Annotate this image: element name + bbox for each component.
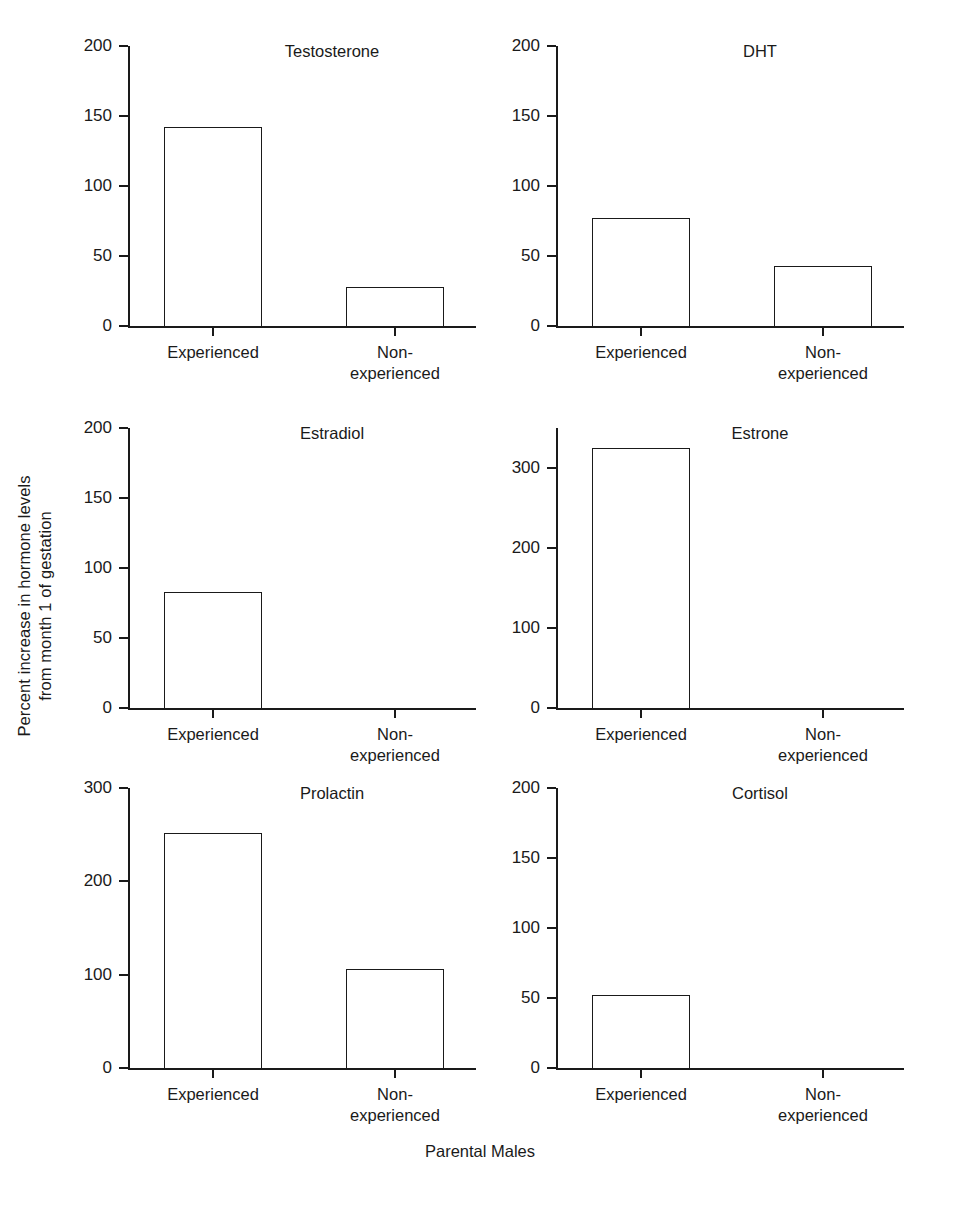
y-tick-label: 0 xyxy=(40,1059,112,1076)
y-tick-label: 100 xyxy=(40,966,112,983)
bar-experienced xyxy=(164,127,262,326)
y-tick-mark xyxy=(119,787,128,789)
x-tick-mark xyxy=(212,710,214,718)
category-label-line: experienced xyxy=(305,1105,485,1126)
y-tick-label: 100 xyxy=(468,919,540,936)
y-tick-mark xyxy=(547,185,556,187)
x-axis-line xyxy=(128,708,476,710)
y-tick-mark xyxy=(547,787,556,789)
y-tick-mark xyxy=(119,427,128,429)
y-tick-label: 50 xyxy=(40,629,112,646)
y-tick-mark xyxy=(547,467,556,469)
y-tick-label: 0 xyxy=(468,1059,540,1076)
y-tick-label: 100 xyxy=(40,177,112,194)
y-axis-title: Percent increase in hormone levels from … xyxy=(14,396,56,816)
x-category-label: Non-experienced xyxy=(305,724,485,766)
y-tick-mark xyxy=(119,707,128,709)
y-tick-label: 200 xyxy=(468,779,540,796)
x-category-label: Experienced xyxy=(551,342,731,363)
y-tick-label: 0 xyxy=(40,317,112,334)
x-tick-mark xyxy=(822,1070,824,1078)
x-axis-line xyxy=(128,326,476,328)
x-category-label: Experienced xyxy=(551,1084,731,1105)
y-tick-mark xyxy=(547,997,556,999)
y-tick-mark xyxy=(119,880,128,882)
bar-experienced xyxy=(164,833,262,1068)
x-tick-mark xyxy=(822,328,824,336)
panel-title: Estrone xyxy=(616,424,904,443)
y-tick-mark xyxy=(547,927,556,929)
x-category-label: Experienced xyxy=(123,724,303,745)
bar-non-experienced xyxy=(346,287,444,326)
y-tick-label: 150 xyxy=(40,489,112,506)
y-tick-mark xyxy=(119,637,128,639)
y-tick-label: 0 xyxy=(468,317,540,334)
y-tick-mark xyxy=(547,115,556,117)
x-category-label: Experienced xyxy=(123,342,303,363)
bar-non-experienced xyxy=(774,266,872,326)
y-tick-mark xyxy=(547,1067,556,1069)
x-category-label: Non-experienced xyxy=(733,342,913,384)
y-tick-label: 50 xyxy=(468,247,540,264)
category-label-line: Non- xyxy=(305,724,485,745)
bar-experienced xyxy=(164,592,262,708)
y-tick-label: 200 xyxy=(40,37,112,54)
y-tick-mark xyxy=(119,325,128,327)
category-label-line: Experienced xyxy=(123,724,303,745)
x-tick-mark xyxy=(640,1070,642,1078)
category-label-line: experienced xyxy=(733,1105,913,1126)
chart-panel-cortisol: 050100150200ExperiencedNon-experiencedCo… xyxy=(556,788,944,1158)
y-tick-label: 150 xyxy=(40,107,112,124)
category-label-line: Non- xyxy=(305,1084,485,1105)
category-label-line: Non- xyxy=(733,1084,913,1105)
y-tick-label: 300 xyxy=(40,779,112,796)
y-tick-mark xyxy=(547,45,556,47)
y-tick-label: 0 xyxy=(40,699,112,716)
y-tick-label: 0 xyxy=(468,699,540,716)
chart-panel-dht: 050100150200ExperiencedNon-experiencedDH… xyxy=(556,46,944,416)
x-axis-line xyxy=(128,1068,476,1070)
x-tick-mark xyxy=(212,328,214,336)
chart-panel-estradiol: 050100150200ExperiencedNon-experiencedEs… xyxy=(128,428,516,798)
category-label-line: experienced xyxy=(733,745,913,766)
bar-experienced xyxy=(592,448,690,708)
x-category-label: Non-experienced xyxy=(305,1084,485,1126)
y-axis-title-line1: Percent increase in hormone levels xyxy=(14,396,35,816)
category-label-line: Experienced xyxy=(551,724,731,745)
panel-title: DHT xyxy=(616,42,904,61)
y-tick-label: 50 xyxy=(468,989,540,1006)
y-tick-mark xyxy=(547,707,556,709)
x-axis-line xyxy=(556,326,904,328)
x-category-label: Non-experienced xyxy=(733,724,913,766)
y-tick-mark xyxy=(119,255,128,257)
bar-experienced xyxy=(592,995,690,1068)
y-axis-line xyxy=(556,788,558,1068)
y-tick-mark xyxy=(119,1067,128,1069)
y-tick-label: 200 xyxy=(468,37,540,54)
category-label-line: Experienced xyxy=(123,342,303,363)
chart-panel-prolactin: 0100200300ExperiencedNon-experiencedProl… xyxy=(128,788,516,1158)
y-axis-line xyxy=(556,428,558,708)
x-category-label: Experienced xyxy=(551,724,731,745)
x-tick-mark xyxy=(822,710,824,718)
y-tick-mark xyxy=(119,567,128,569)
x-tick-mark xyxy=(394,1070,396,1078)
y-tick-mark xyxy=(547,255,556,257)
panel-title: Cortisol xyxy=(616,784,904,803)
x-category-label: Non-experienced xyxy=(305,342,485,384)
bar-non-experienced xyxy=(346,969,444,1068)
y-tick-label: 150 xyxy=(468,849,540,866)
x-category-label: Experienced xyxy=(123,1084,303,1105)
y-axis-title-line2: from month 1 of gestation xyxy=(35,396,56,816)
y-axis-line xyxy=(556,46,558,326)
y-tick-label: 150 xyxy=(468,107,540,124)
category-label-line: Experienced xyxy=(123,1084,303,1105)
y-tick-label: 100 xyxy=(468,177,540,194)
y-tick-mark xyxy=(547,857,556,859)
y-tick-mark xyxy=(119,974,128,976)
y-tick-mark xyxy=(119,115,128,117)
y-axis-line xyxy=(128,46,130,326)
category-label-line: Experienced xyxy=(551,1084,731,1105)
y-tick-label: 200 xyxy=(40,419,112,436)
y-tick-mark xyxy=(547,627,556,629)
